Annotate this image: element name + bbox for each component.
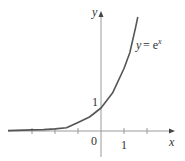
exp-curve: [8, 17, 138, 131]
svg-text:x: x: [157, 37, 162, 46]
svg-text:y: y: [135, 38, 142, 52]
y-axis-label: y: [91, 5, 98, 19]
y-axis-arrow-icon: [99, 11, 104, 17]
curve-equation-label: y = e x: [135, 37, 162, 52]
x-tick-label-1: 1: [121, 138, 127, 152]
x-axis-label: x: [168, 135, 175, 149]
origin-label: 0: [91, 134, 97, 148]
exponential-graph: y x 0 1 1 y = e x: [0, 0, 185, 161]
x-axis-arrow-icon: [169, 129, 175, 134]
svg-text:= e: = e: [143, 38, 158, 52]
y-tick-label-1: 1: [92, 95, 98, 109]
